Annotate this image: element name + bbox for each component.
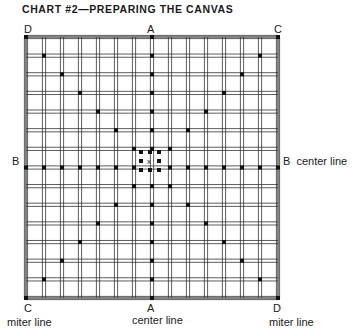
svg-text:x: x	[147, 157, 151, 166]
canvas-grid: x	[0, 0, 357, 332]
